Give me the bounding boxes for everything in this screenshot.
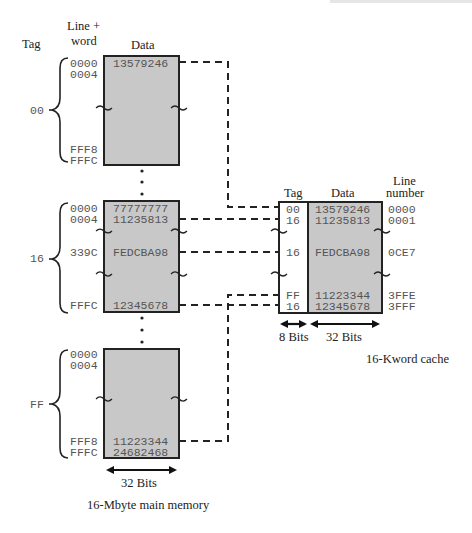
mapping-lines: [179, 62, 279, 441]
main-memory-line-word-header-2: word: [71, 34, 97, 48]
memory-block-16: 77777777 11235813 FEDCBA98 12345678 0000…: [30, 201, 187, 313]
mapping-line-00-0000: [179, 62, 279, 207]
memory-block-00: 13579246 0000 0004 FFF8 FFFC 00: [30, 56, 187, 167]
memory-address: 0004: [70, 68, 98, 81]
cache-data-cell: 12345678: [315, 300, 370, 313]
brace-icon: [52, 350, 68, 458]
cache-tag-width-label: 8 Bits: [279, 330, 309, 344]
cache-line-number: 3FFF: [388, 300, 416, 313]
block-tag-label: 16: [30, 252, 44, 265]
cache-mapping-diagram: Tag Line + word Data 13579246 0000 0004 …: [0, 0, 472, 533]
cache-tag-cell: 16: [286, 300, 300, 313]
memory-address: FFFC: [70, 299, 98, 312]
cache-tag-cell: 16: [286, 246, 300, 259]
main-memory-tag-header: Tag: [22, 37, 41, 51]
continuation-dot: [140, 328, 143, 331]
main-memory-caption: 16-Mbyte main memory: [87, 498, 210, 512]
mapping-line-FF-FFF8: [179, 295, 279, 441]
brace-icon: [52, 203, 68, 313]
memory-block-FF: 11223344 24682468 0000 0004 FFF8 FFFC FF: [30, 348, 187, 459]
cache-tag-header: Tag: [284, 186, 303, 200]
continuation-dot: [140, 340, 143, 343]
cache-data-cell: 11235813: [315, 214, 370, 227]
continuation-dot: [140, 192, 143, 195]
memory-data-cell: 12345678: [113, 299, 168, 312]
continuation-dot: [140, 180, 143, 183]
memory-address: FFFC: [70, 446, 98, 459]
memory-address: 0004: [70, 359, 98, 372]
continuation-dot: [140, 169, 143, 172]
cache-table: 00 13579246 0000 16 11235813 0001 16 FED…: [271, 202, 416, 313]
main-memory-line-word-header-1: Line +: [67, 19, 100, 33]
cache-line-number: 0001: [388, 214, 416, 227]
memory-address: 0004: [70, 213, 98, 226]
memory-block-rect: [104, 56, 179, 165]
main-memory-width-label: 32 Bits: [121, 476, 157, 490]
continuation-dot: [140, 316, 143, 319]
cache-caption: 16-Kword cache: [366, 352, 449, 366]
clipped-text-fragment: [330, 0, 472, 3]
cache-data-cell: FEDCBA98: [315, 246, 370, 259]
cache-tag-cell: 16: [286, 214, 300, 227]
cache-data-header: Data: [331, 186, 355, 200]
block-tag-label: 00: [30, 104, 44, 117]
memory-address: FFFC: [70, 154, 98, 167]
block-tag-label: FF: [30, 398, 44, 411]
memory-address: 339C: [70, 246, 98, 259]
memory-data-cell: 13579246: [113, 57, 168, 70]
memory-data-cell: 11235813: [113, 213, 168, 226]
memory-data-cell: FEDCBA98: [113, 246, 168, 259]
cache-line-number-header-2: number: [386, 186, 425, 200]
cache-data-width-label: 32 Bits: [326, 330, 362, 344]
memory-data-cell: 24682468: [113, 446, 168, 459]
brace-icon: [52, 58, 68, 162]
main-memory-data-header: Data: [131, 38, 155, 52]
cache-line-number: 0CE7: [388, 246, 416, 259]
